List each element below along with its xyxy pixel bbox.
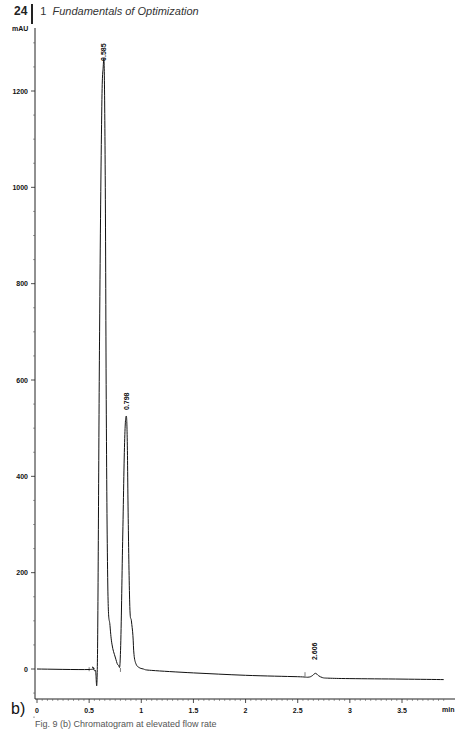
x-tick-label: 3.5 xyxy=(397,707,407,714)
x-tick-label: 1.5 xyxy=(189,707,199,714)
y-tick-label: 0 xyxy=(24,666,28,673)
y-tick-label: 600 xyxy=(16,377,28,384)
y-tick-label: 800 xyxy=(16,280,28,287)
y-tick-label: 400 xyxy=(16,473,28,480)
peak-label: 2.606 xyxy=(311,642,318,660)
chromatogram-trace xyxy=(37,58,444,686)
peak-labels: 0.5850.7982.606 xyxy=(100,43,319,660)
x-axis-unit-label: min xyxy=(442,706,454,713)
x-tick-label: 3 xyxy=(348,707,352,714)
axis-ticks: 02004006008001000120000.511.522.533.5 xyxy=(12,43,443,717)
x-tick-label: 2.5 xyxy=(293,707,303,714)
peak-label: 0.798 xyxy=(123,392,130,410)
y-tick-label: 200 xyxy=(16,569,28,576)
y-tick-label: 1200 xyxy=(12,88,28,95)
y-axis-unit-label: mAU xyxy=(12,25,28,32)
figure-caption: Fig. 9 (b) Chromatogram at elevated flow… xyxy=(35,719,217,729)
x-tick-label: 1 xyxy=(139,707,143,714)
peak-label: 0.585 xyxy=(100,43,107,61)
panel-label: b) xyxy=(11,700,25,718)
x-tick-label: 0.5 xyxy=(84,707,94,714)
y-tick-label: 1000 xyxy=(12,184,28,191)
x-tick-label: 2 xyxy=(244,707,248,714)
x-tick-label: 0 xyxy=(35,707,39,714)
chart-axes: mAUmin xyxy=(12,25,455,713)
